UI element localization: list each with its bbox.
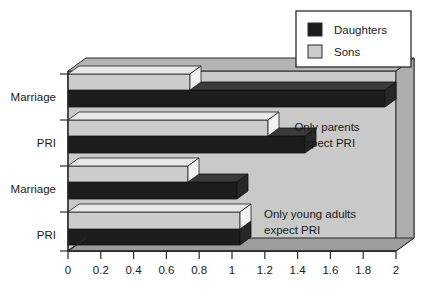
bar-sons-pri-parents [68,112,279,136]
x-axis-label-8: 1.6 [322,264,338,276]
annotation-young-adults-line2: expect PRI [264,224,320,236]
legend-label-daughters: Daughters [334,24,387,36]
bar-front-face [68,212,240,229]
legend-swatch-sons [308,45,322,58]
x-axis-labels: 0 0.2 0.4 0.6 0.8 1 1.2 1.4 1.6 1.8 2 [65,264,399,276]
bar-front-face [68,182,237,199]
y-axis-labels: Marriage PRI Marriage PRI [11,91,56,241]
chart-svg: Marriage PRI Marriage PRI 0 0.2 0.4 0.6 … [0,0,423,292]
annotation-young-adults-line1: Only young adults [264,208,356,220]
bar-top-face [68,112,279,120]
x-axis-label-2: 0.4 [126,264,143,276]
y-axis-label-1: PRI [37,137,56,149]
bar-front-face [68,229,240,245]
x-axis-label-5: 1 [229,264,235,276]
annotation-parents-line2: expect PRI [299,137,355,149]
legend: Daughters Sons [296,11,411,67]
bar-front-face [68,166,188,182]
x-axis-label-9: 1.8 [355,264,371,276]
x-axis-label-0: 0 [65,264,71,276]
plot-right-panel [396,58,414,251]
y-axis-label-2: Marriage [11,183,56,195]
x-axis-label-7: 1.4 [290,264,307,276]
legend-label-sons: Sons [334,46,360,58]
y-axis-label-0: Marriage [11,91,56,103]
x-axis-label-3: 0.6 [158,264,174,276]
bar-top-face [68,204,251,212]
x-axis-label-6: 1.2 [257,264,273,276]
bar-front-face [68,120,268,136]
x-axis-label-10: 2 [393,264,399,276]
y-axis-ticks [60,74,68,251]
bar-chart: Marriage PRI Marriage PRI 0 0.2 0.4 0.6 … [0,0,423,292]
bar-top-face [68,66,201,74]
bar-sons-pri-young [68,204,251,229]
bar-sons-marriage-parents [68,66,201,90]
bar-front-face [68,90,385,107]
x-axis-label-1: 0.2 [93,264,109,276]
bar-front-face [68,136,305,153]
bar-top-face [68,158,199,166]
x-axis-ticks [68,251,396,259]
x-axis-label-4: 0.8 [191,264,207,276]
y-axis-label-3: PRI [37,229,56,241]
bar-sons-marriage-young [68,158,199,182]
annotation-parents-line1: Only parents [294,121,359,133]
legend-swatch-daughters [308,23,322,36]
legend-box [296,11,411,67]
bar-front-face [68,74,190,90]
